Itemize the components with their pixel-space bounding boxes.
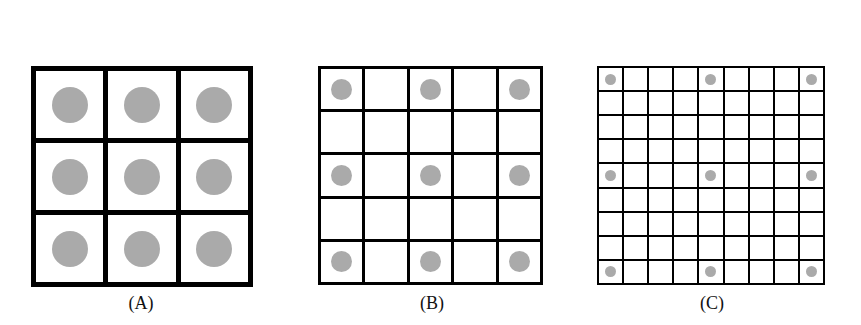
sample-dot <box>331 251 352 272</box>
grid-cell <box>410 199 451 239</box>
grid-cell <box>725 213 748 235</box>
grid-cell <box>775 92 798 114</box>
sample-dot <box>605 170 616 181</box>
sample-dot <box>509 251 530 272</box>
grid-cell <box>649 189 672 211</box>
panel-b-label: (B) <box>392 293 472 314</box>
sample-dot <box>52 87 88 123</box>
sample-dot <box>52 231 88 267</box>
grid-cell <box>649 68 672 90</box>
grid-cell <box>674 261 697 283</box>
grid-cell <box>624 140 647 162</box>
grid-cell <box>725 140 748 162</box>
sample-dot <box>705 170 716 181</box>
grid-cell <box>36 215 103 282</box>
grid-cell <box>365 199 406 239</box>
sample-dot <box>124 231 160 267</box>
sample-dot <box>331 79 352 100</box>
grid-cell <box>699 92 722 114</box>
grid-cell <box>599 164 622 186</box>
grid-cell <box>699 116 722 138</box>
grid-cell <box>649 213 672 235</box>
grid-cell <box>599 189 622 211</box>
grid-cell <box>624 116 647 138</box>
sample-dot <box>124 159 160 195</box>
grid-cell <box>649 116 672 138</box>
grid-cell <box>499 112 540 152</box>
grid-cell <box>800 237 823 259</box>
grid-cell <box>365 69 406 109</box>
sample-dot <box>331 165 352 186</box>
panel-b-grid <box>318 66 543 285</box>
panel-a-grid <box>31 66 253 287</box>
sample-dot <box>196 159 232 195</box>
grid-cell <box>410 69 451 109</box>
grid-cell <box>36 143 103 210</box>
grid-cell <box>108 143 175 210</box>
grid-cell <box>750 116 773 138</box>
grid-cell <box>599 213 622 235</box>
grid-cell <box>674 116 697 138</box>
grid-cell <box>674 140 697 162</box>
grid-cell <box>775 261 798 283</box>
sample-dot <box>196 87 232 123</box>
grid-cell <box>181 215 248 282</box>
grid-cell <box>499 242 540 282</box>
grid-cell <box>499 155 540 195</box>
grid-cell <box>410 242 451 282</box>
grid-cell <box>454 69 495 109</box>
grid-cell <box>181 71 248 138</box>
grid-cell <box>725 68 748 90</box>
grid-cell <box>775 189 798 211</box>
grid-cell <box>410 155 451 195</box>
grid-cell <box>649 261 672 283</box>
sample-dot <box>420 251 441 272</box>
grid-cell <box>800 92 823 114</box>
sample-dot <box>52 159 88 195</box>
sample-dot <box>705 74 716 85</box>
grid-cell <box>674 237 697 259</box>
grid-cell <box>699 164 722 186</box>
sample-dot <box>806 266 817 277</box>
grid-cell <box>365 155 406 195</box>
grid-cell <box>599 92 622 114</box>
grid-cell <box>750 261 773 283</box>
grid-cell <box>674 213 697 235</box>
sample-dot <box>509 79 530 100</box>
grid-cell <box>800 68 823 90</box>
grid-cell <box>800 213 823 235</box>
grid-cell <box>800 261 823 283</box>
grid-cell <box>800 189 823 211</box>
grid-cell <box>624 237 647 259</box>
grid-cell <box>321 69 362 109</box>
panel-c-label: (C) <box>672 293 752 314</box>
grid-cell <box>750 189 773 211</box>
grid-cell <box>649 237 672 259</box>
grid-cell <box>624 213 647 235</box>
grid-cell <box>750 140 773 162</box>
grid-cell <box>599 140 622 162</box>
grid-cell <box>699 261 722 283</box>
grid-cell <box>454 199 495 239</box>
grid-cell <box>599 237 622 259</box>
grid-cell <box>725 189 748 211</box>
sample-dot <box>420 79 441 100</box>
grid-cell <box>624 189 647 211</box>
sample-dot <box>806 170 817 181</box>
grid-cell <box>775 164 798 186</box>
grid-cell <box>649 164 672 186</box>
grid-cell <box>599 261 622 283</box>
grid-cell <box>321 199 362 239</box>
grid-cell <box>108 215 175 282</box>
grid-cell <box>624 92 647 114</box>
grid-cell <box>181 143 248 210</box>
grid-cell <box>750 164 773 186</box>
grid-cell <box>800 140 823 162</box>
grid-cell <box>775 237 798 259</box>
grid-cell <box>674 164 697 186</box>
grid-cell <box>454 112 495 152</box>
grid-cell <box>365 242 406 282</box>
grid-cell <box>108 71 175 138</box>
grid-cell <box>725 261 748 283</box>
grid-cell <box>499 69 540 109</box>
